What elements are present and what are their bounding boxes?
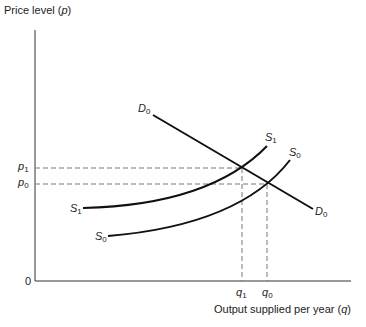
label-s0-start: S0 (95, 230, 107, 244)
tick-q1: q1 (236, 286, 247, 300)
label-s0-end: S0 (289, 146, 301, 160)
origin-label: 0 (25, 275, 31, 287)
label-s1-end: S1 (265, 131, 277, 145)
tick-p1: p1 (17, 160, 29, 174)
y-axis-title: Price level (p) (4, 4, 71, 16)
guide-lines (35, 168, 267, 281)
tick-q0: q0 (262, 286, 273, 300)
supply-curve-s0 (108, 160, 290, 236)
tick-p0: p0 (17, 176, 29, 190)
label-d0-end: D0 (315, 205, 328, 219)
label-s1-start: S1 (70, 202, 82, 216)
supply-curve-s1 (83, 146, 267, 208)
x-axis-title: Output supplied per year (q) (214, 303, 351, 315)
chart-canvas: Price level (p) p1 p0 0 q1 q0 Output sup… (0, 0, 366, 327)
label-d0-start: D0 (138, 102, 151, 116)
